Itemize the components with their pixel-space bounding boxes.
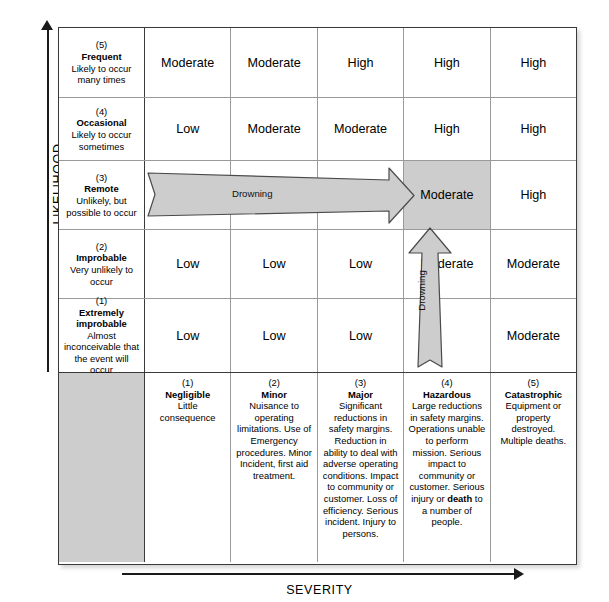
likelihood-header-frequent: (5) Frequent Likely to occur many times xyxy=(59,28,145,97)
matrix-cell[interactable] xyxy=(231,161,317,229)
likelihood-axis-arrow-icon xyxy=(41,20,53,30)
matrix-cell[interactable]: Low xyxy=(318,230,404,298)
matrix-row-improbable: (2) Improbable Very unlikely to occur Lo… xyxy=(59,230,576,299)
matrix-corner-block xyxy=(59,373,145,562)
likelihood-header-improbable: (2) Improbable Very unlikely to occur xyxy=(59,230,145,298)
severity-number: (1) xyxy=(149,377,226,389)
likelihood-description: Unlikely, but possible to occur xyxy=(63,195,140,218)
matrix-cell[interactable]: High xyxy=(491,161,576,229)
matrix-cell[interactable]: Moderate xyxy=(145,28,231,97)
matrix-cell[interactable]: Moderate xyxy=(231,28,317,97)
matrix-cell[interactable]: Moderate xyxy=(231,98,317,160)
likelihood-number: (4) xyxy=(96,106,107,118)
severity-header-negligible: (1) Negligible Little consequence xyxy=(145,373,231,562)
matrix-row-frequent: (5) Frequent Likely to occur many times … xyxy=(59,28,576,98)
likelihood-description: Likely to occur sometimes xyxy=(63,129,140,152)
severity-axis-arrow-icon xyxy=(514,568,524,580)
likelihood-number: (1) xyxy=(96,295,107,307)
severity-number: (3) xyxy=(322,377,399,389)
severity-description: Nuisance to operating limitations. Use o… xyxy=(235,400,312,481)
matrix-cell[interactable]: Moderate xyxy=(491,299,576,372)
risk-matrix-grid: (5) Frequent Likely to occur many times … xyxy=(58,27,577,565)
matrix-cell[interactable]: High xyxy=(318,28,404,97)
matrix-cell[interactable]: Low xyxy=(318,299,404,372)
matrix-cell-highlighted[interactable]: Moderate xyxy=(404,161,490,229)
severity-name: Catastrophic xyxy=(495,389,572,401)
matrix-cell[interactable]: High xyxy=(491,98,576,160)
matrix-row-extremely-improbable: (1) Extremely improbable Almost inconcei… xyxy=(59,299,576,373)
likelihood-name: Occasional xyxy=(76,117,126,129)
matrix-cell[interactable]: Low xyxy=(231,230,317,298)
severity-name: Minor xyxy=(235,389,312,401)
matrix-cell[interactable] xyxy=(404,299,490,372)
severity-description: Significant reductions in safety margins… xyxy=(322,400,399,539)
matrix-cell[interactable]: Low xyxy=(145,98,231,160)
matrix-cell[interactable]: High xyxy=(404,28,490,97)
likelihood-name: Improbable xyxy=(76,252,127,264)
severity-number: (2) xyxy=(235,377,312,389)
matrix-row-occasional: (4) Occasional Likely to occur sometimes… xyxy=(59,98,576,161)
severity-desc-part1: Large reductions in safety margins. Oper… xyxy=(409,400,486,504)
matrix-cell[interactable]: Low xyxy=(145,230,231,298)
severity-axis-line xyxy=(122,573,517,575)
matrix-cell[interactable]: Moderate xyxy=(491,230,576,298)
severity-axis: SEVERITY xyxy=(122,568,522,598)
severity-header-hazardous: (4) Hazardous Large reductions in safety… xyxy=(404,373,490,562)
matrix-cell[interactable] xyxy=(145,161,231,229)
likelihood-number: (2) xyxy=(96,241,107,253)
likelihood-header-extremely-improbable: (1) Extremely improbable Almost inconcei… xyxy=(59,299,145,372)
likelihood-name: Extremely improbable xyxy=(63,307,140,330)
severity-number: (5) xyxy=(495,377,572,389)
severity-header-major: (3) Major Significant reductions in safe… xyxy=(318,373,404,562)
likelihood-axis: LIKELIHOOD xyxy=(36,27,58,372)
matrix-cell[interactable]: Moderate xyxy=(318,98,404,160)
severity-description: Little consequence xyxy=(149,400,226,423)
risk-matrix-diagram: LIKELIHOOD SEVERITY (5) Frequent Likely … xyxy=(0,0,609,602)
likelihood-name: Frequent xyxy=(81,51,121,63)
severity-name: Major xyxy=(322,389,399,401)
likelihood-axis-line xyxy=(47,27,49,372)
matrix-cell[interactable]: High xyxy=(491,28,576,97)
severity-name: Hazardous xyxy=(408,389,485,401)
matrix-cell[interactable]: Moderate xyxy=(404,230,490,298)
matrix-cell[interactable] xyxy=(318,161,404,229)
severity-header-minor: (2) Minor Nuisance to operating limitati… xyxy=(231,373,317,562)
severity-header-row: (1) Negligible Little consequence (2) Mi… xyxy=(59,373,576,562)
matrix-cell[interactable]: Low xyxy=(231,299,317,372)
likelihood-number: (3) xyxy=(96,172,107,184)
severity-header-catastrophic: (5) Catastrophic Equipment or property d… xyxy=(491,373,576,562)
severity-number: (4) xyxy=(408,377,485,389)
matrix-cell[interactable]: Low xyxy=(145,299,231,372)
likelihood-number: (5) xyxy=(96,39,107,51)
matrix-row-remote: (3) Remote Unlikely, but possible to occ… xyxy=(59,161,576,230)
likelihood-description: Very unlikely to occur xyxy=(63,264,140,287)
likelihood-description: Likely to occur many times xyxy=(63,63,140,86)
severity-description-hazardous: Large reductions in safety margins. Oper… xyxy=(408,400,485,528)
severity-axis-label: SEVERITY xyxy=(122,583,517,597)
matrix-cell[interactable]: High xyxy=(404,98,490,160)
severity-desc-emphasis: death xyxy=(447,493,472,504)
severity-name: Negligible xyxy=(149,389,226,401)
likelihood-name: Remote xyxy=(84,183,118,195)
likelihood-header-remote: (3) Remote Unlikely, but possible to occ… xyxy=(59,161,145,229)
likelihood-description: Almost inconceivable that the event will… xyxy=(63,330,140,376)
likelihood-header-occasional: (4) Occasional Likely to occur sometimes xyxy=(59,98,145,160)
severity-description: Equipment or property destroyed. Multipl… xyxy=(495,400,572,446)
